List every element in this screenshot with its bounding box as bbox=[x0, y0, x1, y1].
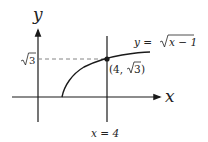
point-label: (4, 3 ) bbox=[109, 62, 145, 75]
point-4-sqrt3 bbox=[104, 56, 109, 61]
vertical-line-label: x = 4 bbox=[91, 127, 119, 139]
y-axis-label: y bbox=[32, 4, 43, 24]
diagram-canvas: y x 3 y = x − 1 (4, 3 ) x = 4 bbox=[0, 0, 208, 142]
svg-text:3: 3 bbox=[29, 55, 35, 66]
svg-text:3: 3 bbox=[134, 63, 141, 75]
y-tick-sqrt3: 3 bbox=[21, 53, 36, 66]
svg-text:y =: y = bbox=[133, 36, 152, 48]
svg-text:x − 1: x − 1 bbox=[169, 36, 197, 48]
svg-text:(4,: (4, bbox=[109, 63, 123, 75]
svg-text:): ) bbox=[141, 63, 145, 75]
equation-label: y = x − 1 bbox=[133, 35, 197, 48]
x-axis-label: x bbox=[165, 86, 175, 106]
